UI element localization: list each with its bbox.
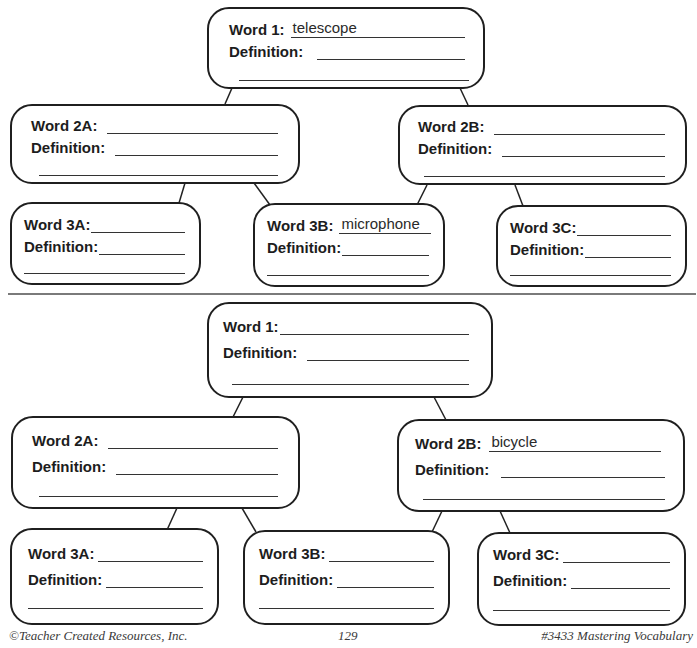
definition-field[interactable]	[571, 571, 670, 589]
word-field[interactable]	[280, 317, 469, 335]
word-2b-box: Word 2B: Definition:	[398, 105, 687, 185]
word-field[interactable]	[329, 544, 434, 562]
word-field[interactable]	[494, 117, 665, 135]
word-label: Word 3A:	[24, 216, 90, 233]
word-label: Word 3C:	[493, 546, 559, 563]
definition-field[interactable]	[342, 238, 429, 256]
definition-label: Definition:	[32, 458, 106, 475]
definition-line-2[interactable]	[510, 275, 671, 276]
word-3b-box: Word 3B: microphone Definition:	[253, 203, 445, 287]
definition-line-2[interactable]	[28, 608, 203, 609]
definition-line-2[interactable]	[423, 499, 665, 500]
word-field[interactable]: telescope	[291, 20, 465, 38]
definition-label: Definition:	[259, 571, 333, 588]
footer-page-number: 129	[338, 628, 358, 644]
definition-line-2[interactable]	[239, 80, 469, 81]
word-field[interactable]	[563, 545, 670, 563]
word-field[interactable]	[107, 116, 278, 134]
definition-line-2[interactable]	[232, 384, 469, 385]
word-label: Word 3C:	[510, 219, 576, 236]
word-3c-box: Word 3C: Definition:	[496, 205, 687, 287]
word-field[interactable]	[98, 544, 203, 562]
word-2a-box: Word 2A: Definition:	[10, 104, 300, 184]
word-field[interactable]	[91, 215, 185, 233]
word-1-box: Word 1: telescope Definition:	[207, 7, 485, 89]
definition-label: Definition:	[24, 238, 98, 255]
word-label: Word 2A:	[31, 117, 97, 134]
definition-label: Definition:	[223, 344, 297, 361]
definition-field[interactable]	[502, 139, 665, 157]
definition-field[interactable]	[116, 457, 278, 475]
word-label: Word 3B:	[259, 545, 325, 562]
word-1-box: Word 1: Definition:	[207, 302, 493, 398]
definition-line-2[interactable]	[424, 176, 665, 177]
definition-line-2[interactable]	[493, 610, 670, 611]
definition-label: Definition:	[229, 43, 303, 60]
definition-field[interactable]	[317, 42, 465, 60]
word-2b-box: Word 2B: bicycle Definition:	[397, 419, 685, 512]
section-divider	[8, 293, 696, 295]
definition-field[interactable]	[106, 570, 203, 588]
definition-label: Definition:	[415, 461, 489, 478]
word-label: Word 2A:	[32, 432, 98, 449]
definition-field[interactable]	[585, 240, 671, 258]
definition-line-2[interactable]	[267, 275, 429, 276]
definition-label: Definition:	[28, 571, 102, 588]
definition-field[interactable]	[115, 138, 278, 156]
word-3c-box: Word 3C: Definition:	[477, 532, 686, 626]
word-3a-box: Word 3A: Definition:	[10, 528, 219, 625]
definition-field[interactable]	[501, 460, 665, 478]
footer-copyright: ©Teacher Created Resources, Inc.	[9, 628, 187, 644]
definition-line-2[interactable]	[39, 175, 278, 176]
word-2a-box: Word 2A: Definition:	[11, 416, 300, 509]
definition-field[interactable]	[99, 237, 185, 255]
word-3a-box: Word 3A: Definition:	[10, 202, 201, 285]
word-label: Word 3A:	[28, 545, 94, 562]
definition-label: Definition:	[493, 572, 567, 589]
word-field[interactable]	[577, 218, 671, 236]
word-label: Word 1:	[223, 318, 279, 335]
definition-label: Definition:	[31, 139, 105, 156]
definition-line-2[interactable]	[24, 273, 185, 274]
word-field[interactable]: microphone	[339, 216, 431, 234]
definition-label: Definition:	[267, 239, 341, 256]
word-label: Word 1:	[229, 21, 285, 38]
definition-label: Definition:	[510, 241, 584, 258]
definition-line-2[interactable]	[259, 608, 434, 609]
definition-field[interactable]	[307, 343, 469, 361]
definition-field[interactable]	[337, 570, 434, 588]
word-label: Word 2B:	[418, 118, 484, 135]
word-field[interactable]: bicycle	[489, 434, 661, 452]
word-3b-box: Word 3B: Definition:	[243, 530, 450, 625]
word-label: Word 3B:	[267, 217, 333, 234]
footer-book-title: #3433 Mastering Vocabulary	[541, 628, 693, 644]
word-field[interactable]	[108, 431, 278, 449]
definition-label: Definition:	[418, 140, 492, 157]
word-label: Word 2B:	[415, 435, 481, 452]
definition-line-2[interactable]	[39, 496, 278, 497]
